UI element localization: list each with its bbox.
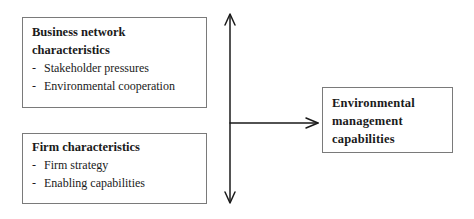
connector-arrows <box>0 0 474 219</box>
